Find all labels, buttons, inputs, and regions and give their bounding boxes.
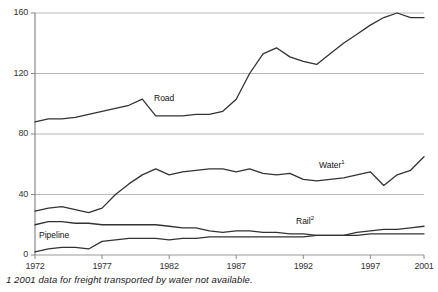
y-axis-label-40: 40 <box>4 189 28 199</box>
series-label-text: Pipeline <box>39 230 69 240</box>
x-axis-label-1982: 1982 <box>149 261 189 271</box>
series-line-road <box>35 13 424 122</box>
series-line-water <box>35 157 424 213</box>
series-footnote-marker: 2 <box>311 215 314 221</box>
x-axis-label-1997: 1997 <box>350 261 390 271</box>
tick-marks <box>31 13 424 259</box>
series-label-pipeline: Pipeline <box>38 230 70 240</box>
y-axis-label-80: 80 <box>4 128 28 138</box>
series-label-rail: Rail2 <box>295 215 315 226</box>
chart-footnote: 1 2001 data for freight transported by w… <box>6 274 253 285</box>
series-line-rail <box>35 226 424 252</box>
series-line-pipeline <box>35 222 424 236</box>
series-label-road: Road <box>153 93 175 103</box>
y-axis-label-0: 0 <box>4 249 28 259</box>
x-axis-label-1972: 1972 <box>15 261 55 271</box>
series-lines <box>35 13 424 252</box>
x-axis-label-1987: 1987 <box>216 261 256 271</box>
series-label-text: Rail <box>296 216 311 226</box>
y-axis-label-160: 160 <box>4 7 28 17</box>
gridlines <box>35 13 424 255</box>
series-label-text: Water <box>319 160 341 170</box>
series-footnote-marker: 1 <box>341 159 344 165</box>
y-axis-label-120: 120 <box>4 68 28 78</box>
series-label-text: Road <box>154 93 174 103</box>
series-label-water: Water1 <box>318 159 346 170</box>
x-axis-label-1992: 1992 <box>283 261 323 271</box>
x-axis-label-2001: 2001 <box>404 261 438 271</box>
x-axis-label-1977: 1977 <box>82 261 122 271</box>
